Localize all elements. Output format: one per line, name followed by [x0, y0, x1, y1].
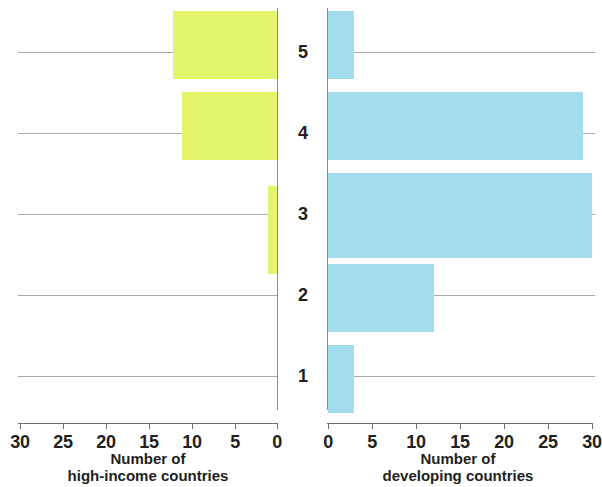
axis-title-line-2: high-income countries	[10, 467, 286, 484]
gridline	[328, 52, 595, 53]
axis-title-high-income: Number of high-income countries	[10, 450, 286, 484]
axis-tick	[63, 423, 64, 429]
value-axis-high-income	[18, 423, 278, 424]
category-axis-spine-left	[277, 8, 278, 410]
axis-tick	[277, 423, 278, 429]
bar-high-income-3	[268, 186, 277, 274]
axis-tick	[504, 423, 505, 429]
category-label-2: 2	[288, 285, 318, 306]
panel-developing: 0 5 10 15 20 25 30	[327, 8, 593, 418]
axis-tick	[235, 423, 236, 429]
axis-tick	[106, 423, 107, 429]
bar-developing-5	[328, 11, 354, 79]
gridline	[18, 214, 278, 215]
plot-area-developing	[327, 8, 593, 408]
category-label-1: 1	[288, 366, 318, 387]
bar-developing-2	[328, 264, 434, 332]
axis-tick	[416, 423, 417, 429]
axis-tick	[372, 423, 373, 429]
axis-title-line-1: Number of	[320, 450, 596, 467]
axis-title-line-1: Number of	[10, 450, 286, 467]
axis-tick	[20, 423, 21, 429]
bar-developing-4	[328, 92, 583, 160]
plot-area-high-income	[18, 8, 278, 408]
bar-developing-3	[328, 173, 592, 258]
category-label-3: 3	[288, 204, 318, 225]
gridline	[328, 376, 595, 377]
bar-high-income-5	[173, 11, 277, 79]
category-label-5: 5	[288, 42, 318, 63]
axis-tick	[328, 423, 329, 429]
axis-tick	[460, 423, 461, 429]
axis-tick	[592, 423, 593, 429]
axis-title-line-2: developing countries	[320, 467, 596, 484]
bar-developing-1	[328, 345, 354, 413]
gridline	[18, 295, 278, 296]
axis-tick	[548, 423, 549, 429]
bar-high-income-4	[182, 92, 277, 160]
axis-tick	[192, 423, 193, 429]
category-label-4: 4	[288, 123, 318, 144]
axis-title-developing: Number of developing countries	[320, 450, 596, 484]
gridline	[18, 376, 278, 377]
panel-high-income: 30 25 20 15 10 5 0	[18, 8, 278, 418]
axis-tick	[149, 423, 150, 429]
